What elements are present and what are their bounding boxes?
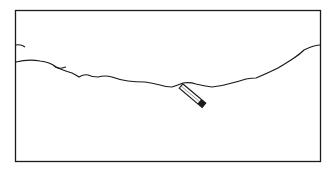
horizon-curve: [16, 45, 320, 87]
line-drawing-figure: [0, 0, 334, 172]
left-stub: [16, 45, 25, 47]
frame: [16, 11, 321, 162]
pencil-icon: [179, 84, 206, 108]
